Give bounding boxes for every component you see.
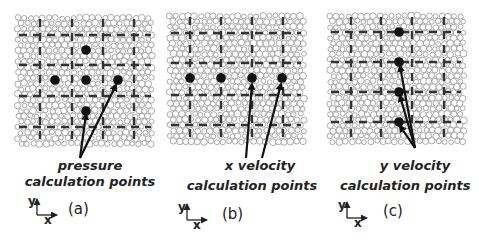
particle [22, 103, 27, 108]
particle [432, 34, 438, 40]
panel-letter-b: (b) [222, 205, 243, 223]
particle [445, 46, 450, 51]
particle [284, 45, 291, 52]
particle [77, 58, 84, 65]
particle [339, 35, 345, 41]
particle [446, 133, 451, 138]
particle [336, 83, 342, 89]
particle [251, 138, 257, 144]
particle [433, 25, 439, 31]
particle [327, 123, 333, 129]
particle [84, 70, 89, 75]
particle [145, 103, 151, 109]
particle [396, 79, 401, 84]
particle [430, 106, 435, 111]
particle [62, 118, 68, 124]
particle [340, 133, 345, 138]
particle [92, 107, 98, 113]
particle [352, 67, 358, 73]
particle [167, 112, 173, 118]
particle [359, 101, 364, 106]
particle [135, 20, 141, 26]
particle [15, 136, 21, 142]
particle [43, 86, 48, 91]
particle [87, 119, 93, 125]
particle [267, 47, 272, 52]
particle [340, 24, 346, 30]
particle [110, 20, 116, 26]
particle [199, 14, 204, 19]
particle [233, 18, 239, 24]
particle [224, 24, 229, 29]
particle [339, 14, 344, 19]
particle [19, 97, 25, 103]
particle [207, 105, 213, 111]
particle [116, 49, 121, 54]
particle [31, 54, 36, 59]
particle [96, 102, 102, 108]
particle [328, 25, 333, 30]
particle [254, 67, 260, 73]
particle [359, 123, 364, 128]
particle [236, 100, 241, 105]
particle [446, 67, 452, 73]
particle [350, 139, 356, 145]
particle [352, 100, 358, 106]
particle [43, 108, 48, 113]
particle [59, 135, 64, 140]
particle [22, 59, 27, 64]
particle [267, 67, 273, 73]
particle [402, 13, 407, 18]
particle [383, 45, 389, 51]
particle [195, 19, 200, 24]
particle [211, 25, 216, 30]
particle [183, 128, 189, 134]
particle [55, 119, 61, 125]
particle [380, 52, 385, 57]
particle [194, 139, 200, 145]
particle [196, 106, 201, 111]
particle [340, 47, 345, 52]
particle [19, 142, 24, 147]
particle [445, 78, 450, 83]
particle [47, 15, 52, 20]
particle [267, 80, 272, 85]
particle [336, 51, 341, 56]
particle [424, 84, 430, 90]
particle [276, 139, 282, 145]
particle [436, 63, 441, 68]
particle [33, 37, 39, 43]
particle [78, 71, 83, 76]
particle [284, 68, 290, 74]
particle [204, 25, 209, 30]
particle [99, 43, 104, 48]
particle [367, 84, 373, 90]
particle [196, 118, 201, 123]
particle [28, 135, 33, 140]
particle [210, 34, 216, 40]
particle [205, 133, 210, 138]
particle [52, 26, 57, 31]
particle [108, 36, 114, 42]
particle [389, 13, 394, 18]
particle [50, 21, 55, 26]
particle [358, 78, 364, 84]
particle [198, 34, 204, 40]
particle [183, 105, 189, 111]
particle [223, 46, 228, 51]
particle [234, 110, 241, 117]
caption-a-line1: pressure [50, 158, 130, 174]
particle [390, 133, 395, 138]
particle [414, 134, 419, 139]
particle [336, 139, 343, 146]
particle [435, 18, 441, 24]
particle [396, 13, 401, 18]
particle [361, 20, 366, 25]
particle [375, 138, 380, 143]
particle [383, 79, 389, 85]
particle [214, 52, 219, 57]
particle [331, 85, 336, 90]
particle [96, 136, 101, 141]
particle [385, 138, 391, 144]
particle [50, 42, 55, 47]
